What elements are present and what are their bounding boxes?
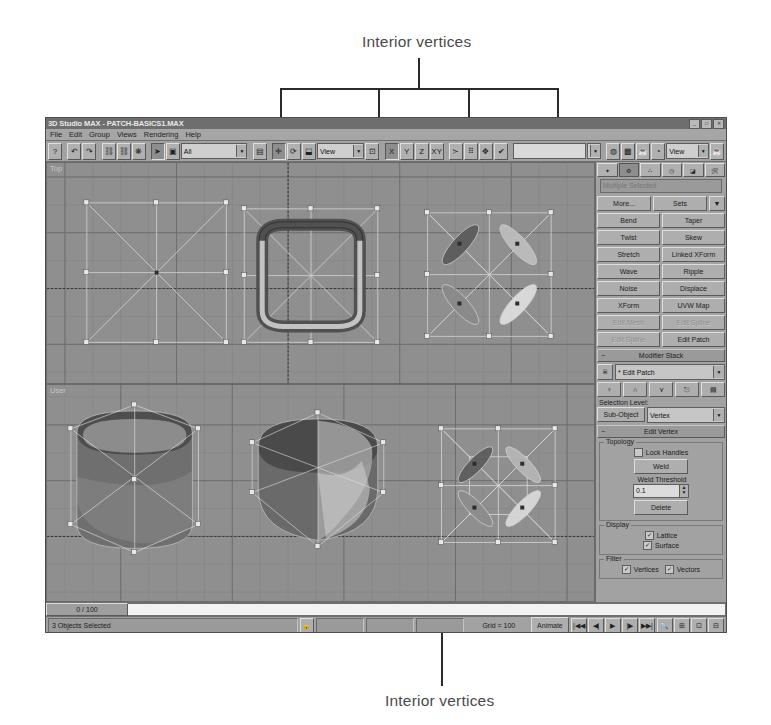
spinner-up-down-icon[interactable]: ▲▼ (680, 484, 689, 498)
menu-item-rendering[interactable]: Rendering (144, 130, 179, 139)
delete-button[interactable]: Delete (634, 500, 688, 515)
object-name-field[interactable]: Multiple Selected (600, 179, 722, 193)
lattice-checkbox[interactable]: ✓ (645, 531, 654, 540)
chevron-down-icon[interactable]: ▼ (353, 145, 363, 157)
animate-button[interactable]: Animate (531, 617, 569, 634)
modifier-uvw-map-button[interactable]: UVW Map (662, 298, 725, 313)
array-icon[interactable]: ⠿ (464, 143, 478, 160)
go-to-start-icon[interactable]: |◀◀ (571, 618, 587, 633)
modify-tab[interactable]: ⚙ (619, 163, 640, 177)
modifier-linked-xform-button[interactable]: Linked XForm (662, 247, 725, 262)
axis-constraint-y[interactable]: Y (400, 143, 414, 160)
time-slider-bar[interactable]: 0 / 100 (46, 602, 726, 616)
zoom-extents-icon[interactable]: ⊡ (691, 618, 707, 633)
modifier-edit-spline-2-button[interactable]: Edit Spline (597, 332, 660, 347)
modifier-edit-patch-button[interactable]: Edit Patch (662, 332, 725, 347)
vertices-row[interactable]: ✓ Vertices (622, 565, 659, 574)
sub-object-button[interactable]: Sub-Object (597, 407, 645, 422)
modifier-stack-rollout-header[interactable]: − Modifier Stack (597, 349, 725, 362)
render-scene-icon[interactable]: ▩ (621, 143, 635, 160)
menu-item-group[interactable]: Group (89, 130, 110, 139)
maximize-icon[interactable]: □ (701, 119, 712, 129)
menu-item-edit[interactable]: Edit (69, 130, 82, 139)
modifier-xform-button[interactable]: XForm (597, 298, 660, 313)
surface-checkbox[interactable]: ✓ (643, 541, 652, 550)
axis-constraint-x[interactable]: X (385, 143, 399, 160)
modifier-ripple-button[interactable]: Ripple (662, 264, 725, 279)
viewport-user[interactable]: User (46, 384, 595, 602)
pin-stack-icon[interactable]: ⌸ (597, 364, 613, 380)
vectors-row[interactable]: ✓ Vectors (665, 565, 700, 574)
viewport-top[interactable]: Top (46, 162, 595, 384)
help-icon[interactable]: ? (48, 143, 62, 160)
use-pivot-icon[interactable]: ⊡ (365, 143, 379, 160)
bind-space-warp-icon[interactable]: ❋ (132, 143, 146, 160)
modifier-taper-button[interactable]: Taper (662, 213, 725, 228)
coord-y-field[interactable] (366, 618, 414, 633)
unlink-icon[interactable]: ⛓ (117, 143, 131, 160)
menu-item-help[interactable]: Help (185, 130, 200, 139)
snap-icon[interactable]: ✔ (494, 143, 508, 160)
create-tab[interactable]: ✦ (597, 163, 618, 177)
display-tab[interactable]: ◪ (683, 163, 704, 177)
select-object-icon[interactable]: ➤ (151, 143, 165, 160)
modifier-bend-button[interactable]: Bend (597, 213, 660, 228)
active-modifier-toggle-icon[interactable]: ♀ (597, 382, 621, 397)
quick-render-icon[interactable]: ☕ (636, 143, 650, 160)
previous-frame-icon[interactable]: ◀| (588, 618, 604, 633)
chevron-down-icon[interactable]: ▼ (713, 409, 724, 421)
render-last-icon[interactable]: ☕ (710, 143, 724, 160)
align-icon[interactable]: ✥ (479, 143, 493, 160)
modifier-twist-button[interactable]: Twist (597, 230, 660, 245)
named-selection-arrow[interactable]: ▼ (587, 143, 601, 159)
mirror-icon[interactable]: ≻ (449, 143, 463, 160)
lock-icon[interactable]: 🔒 (300, 618, 314, 633)
make-unique-icon[interactable]: ⋎ (649, 382, 673, 397)
menu-item-file[interactable]: File (50, 130, 62, 139)
modifier-edit-spline-button[interactable]: Edit Spline (662, 315, 725, 330)
sub-object-level-combo[interactable]: Vertex ▼ (647, 407, 725, 423)
material-editor-icon[interactable]: ◍ (606, 143, 620, 160)
modifier-stretch-button[interactable]: Stretch (597, 247, 660, 262)
show-end-result-icon[interactable]: ⑃ (623, 382, 647, 397)
hierarchy-tab[interactable]: ⛬ (640, 163, 661, 177)
render-type-icon[interactable]: ◔ (651, 143, 665, 160)
modifier-edit-mesh-button[interactable]: Edit Mesh (597, 315, 660, 330)
zoom-extents-all-icon[interactable]: ⊟ (708, 618, 724, 633)
remove-modifier-icon[interactable]: ⎋ (675, 382, 699, 397)
modifier-skew-button[interactable]: Skew (662, 230, 725, 245)
named-selection-field[interactable] (513, 143, 586, 159)
render-type-combo[interactable]: View ▼ (666, 143, 709, 159)
coord-x-field[interactable] (316, 618, 364, 633)
chevron-down-icon[interactable]: ▼ (236, 145, 246, 157)
vectors-checkbox[interactable]: ✓ (665, 565, 674, 574)
select-and-scale-icon[interactable]: ⬓ (302, 143, 316, 160)
rollout-collapse-icon[interactable]: − (601, 428, 605, 435)
modifier-displace-button[interactable]: Displace (662, 281, 725, 296)
zoom-icon[interactable]: 🔍 (657, 618, 673, 633)
time-slider-track[interactable] (128, 603, 726, 616)
sets-button[interactable]: Sets (653, 196, 707, 211)
utilities-tab[interactable]: 🛠 (705, 163, 726, 177)
reference-coord-combo[interactable]: View ▼ (317, 143, 364, 159)
motion-tab[interactable]: ◷ (662, 163, 683, 177)
modifier-noise-button[interactable]: Noise (597, 281, 660, 296)
surface-row[interactable]: ✓ Surface (603, 541, 719, 550)
play-icon[interactable]: ▶ (605, 618, 621, 633)
modifier-wave-button[interactable]: Wave (597, 264, 660, 279)
undo-icon[interactable]: ↶ (67, 143, 81, 160)
zoom-all-icon[interactable]: ⊞ (674, 618, 690, 633)
go-to-end-icon[interactable]: ▶▶| (639, 618, 655, 633)
select-and-rotate-icon[interactable]: ⟳ (287, 143, 301, 160)
weld-threshold-value[interactable]: 0.1 (633, 484, 680, 498)
time-slider-handle[interactable]: 0 / 100 (46, 603, 128, 616)
minimize-icon[interactable]: _ (689, 119, 700, 129)
selection-filter-combo[interactable]: All ▼ (181, 143, 248, 159)
lock-handles-row[interactable]: Lock Handles (603, 448, 719, 457)
chevron-down-icon[interactable]: ▼ (590, 145, 600, 157)
modifier-stack-combo[interactable]: * Edit Patch ▼ (615, 364, 725, 380)
title-bar[interactable]: 3D Studio MAX - PATCH-BASICS1.MAX _ □ ✕ (46, 118, 726, 129)
lock-handles-checkbox[interactable] (634, 448, 643, 457)
lattice-row[interactable]: ✓ Lattice (603, 531, 719, 540)
sets-arrow-button[interactable]: ▼ (709, 196, 725, 211)
